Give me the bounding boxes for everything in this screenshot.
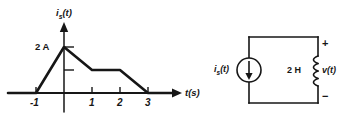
inductor-label: 2 H [287, 66, 301, 75]
x-tick-label-2: 2 [117, 98, 123, 108]
polarity-minus-label: − [322, 91, 328, 102]
current-source-symbol [237, 58, 261, 82]
figure-root: is(t) t(s) 2 A -1 1 2 3 [0, 0, 343, 124]
x-tick-label-1: 1 [89, 98, 95, 108]
circuit-diagram-panel: is(t) 2 H v(t) + − [200, 0, 343, 124]
y-axis [60, 22, 68, 112]
source-label: is(t) [214, 65, 229, 76]
x-tick-label-3: 3 [145, 98, 151, 108]
polarity-plus-label: + [322, 38, 328, 49]
voltage-label: v(t) [322, 66, 336, 75]
x-tick-label-minus1: -1 [30, 98, 39, 108]
y-axis-label: is(t) [56, 8, 72, 21]
peak-amplitude-label: 2 A [35, 42, 49, 52]
waveform-trace [8, 47, 172, 93]
inductor-symbol [314, 56, 319, 86]
x-axis-label: t(s) [185, 88, 200, 98]
waveform-graph-panel: is(t) t(s) 2 A -1 1 2 3 [0, 0, 200, 124]
circuit-schematic [200, 0, 343, 124]
